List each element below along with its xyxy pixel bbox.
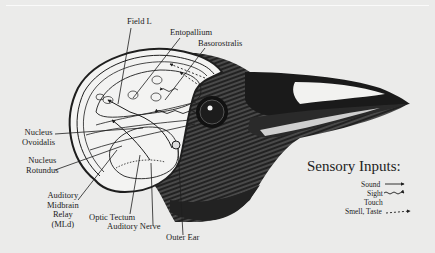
legend-title: Sensory Inputs: [307,158,401,175]
label-auditory-nerve: Auditory Nerve [107,222,161,232]
bird-sensory-diagram: Field L Entopallium Basorostralis Nucleu… [0,0,435,253]
legend-item-sound: Sound [361,180,380,189]
label-basorostralis: Basorostralis [198,39,242,49]
label-nucleus-ovoidalis: Nucleus Ovoidalis [22,128,55,147]
label-entopallium: Entopallium [170,28,212,38]
legend-symbols [384,184,410,213]
legend-item-touch: Touch [364,198,383,207]
outer-ear [172,141,180,149]
label-nucleus-rotundus: Nucleus Rotundus [26,156,59,175]
label-auditory-midbrain-relay: Auditory Midbrain Relay (MLd) [47,191,79,229]
label-field-l: Field L [127,17,152,27]
label-outer-ear: Outer Ear [166,233,199,243]
legend-item-sight: Sight [367,189,383,198]
eye-glint [208,106,213,111]
eye-iris [200,100,224,124]
legend-item-smell-taste: Smell, Taste [345,207,382,216]
